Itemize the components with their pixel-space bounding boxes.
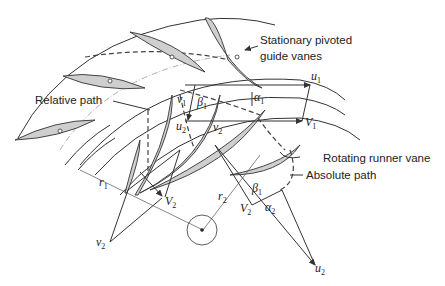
rotating-runner-vane-label: Rotating runner vane: [323, 152, 430, 164]
symbol-r1: r1: [99, 175, 108, 191]
relative-path-label: Relative path: [35, 94, 102, 106]
guide-vane-2: [63, 75, 145, 89]
guide-vanes-label-line2: guide vanes: [260, 50, 322, 62]
runner-vanes: [125, 95, 300, 195]
symbol-V2-right: V2: [240, 201, 251, 217]
symbol-u1: u1: [311, 69, 321, 85]
symbol-alpha1: α1: [254, 90, 264, 106]
symbol-alpha2: α2: [265, 200, 275, 216]
symbol-V2-left: V2: [165, 194, 176, 210]
symbol-v2-top: v2: [213, 120, 222, 136]
symbol-v2-bottom: v2: [96, 235, 105, 251]
guide-vane-4: [205, 18, 262, 88]
symbol-v1: v1: [177, 92, 186, 108]
symbol-beta1-bottom: β1: [251, 181, 262, 197]
leader-lines: [113, 46, 303, 175]
guide-vanes: [15, 18, 262, 140]
symbol-V1: V1: [305, 115, 316, 131]
guide-vanes-label-line1: Stationary pivoted: [260, 34, 352, 46]
turbine-diagram: Stationary pivoted guide vanes Relative …: [0, 0, 445, 286]
absolute-path-label: Absolute path: [306, 169, 376, 181]
symbol-u2-top: u2: [176, 119, 186, 135]
symbol-u2-bottom: u2: [315, 261, 325, 277]
symbol-r2: r2: [218, 189, 227, 205]
